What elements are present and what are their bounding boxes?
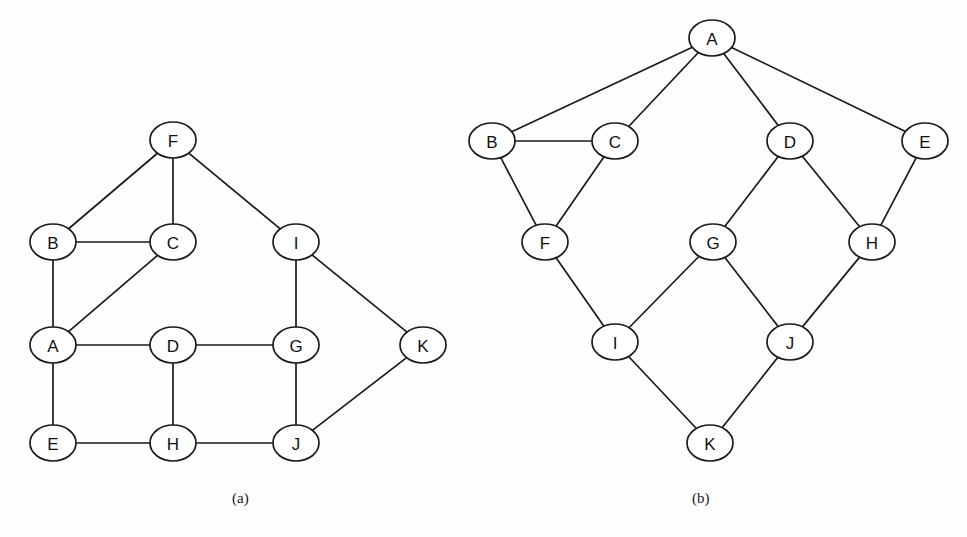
node-label-a-H: H	[167, 435, 179, 454]
graph-node-a-G[interactable]: G	[273, 327, 319, 363]
node-label-b-B: B	[486, 133, 497, 152]
graph-edge-a-F-I	[189, 153, 280, 229]
node-label-b-E: E	[919, 133, 930, 152]
graph-edge-b-E-H	[881, 158, 917, 226]
graph-edge-b-J-K	[722, 357, 778, 427]
graph-node-b-A[interactable]: A	[689, 20, 735, 56]
panel-caption-b: (b)	[692, 490, 710, 507]
graph-node-a-F[interactable]: F	[150, 122, 196, 158]
node-label-a-I: I	[294, 234, 299, 253]
figure-bottom-caption	[0, 528, 967, 537]
graph-edge-b-A-E	[732, 47, 906, 131]
graph-node-b-G[interactable]: G	[690, 224, 736, 260]
graph-node-a-A[interactable]: A	[30, 327, 76, 363]
graph-edge-a-C-A	[69, 255, 158, 331]
node-label-a-B: B	[47, 234, 58, 253]
graph-edge-b-A-B	[512, 47, 693, 132]
panel-caption-a: (a)	[232, 490, 249, 507]
node-label-b-D: D	[784, 133, 796, 152]
node-label-b-C: C	[609, 133, 621, 152]
graph-edge-b-D-G	[725, 156, 778, 226]
graph-node-a-I[interactable]: I	[273, 224, 319, 260]
graph-node-b-D[interactable]: D	[767, 123, 813, 159]
graph-node-a-K[interactable]: K	[400, 327, 446, 363]
node-label-a-C: C	[167, 234, 179, 253]
graph-node-b-E[interactable]: E	[902, 123, 948, 159]
graph-edge-b-I-K	[629, 357, 697, 429]
node-label-a-D: D	[167, 337, 179, 356]
graph-node-b-C[interactable]: C	[592, 123, 638, 159]
graph-node-a-C[interactable]: C	[150, 224, 196, 260]
node-label-b-G: G	[706, 234, 719, 253]
node-label-b-K: K	[704, 435, 716, 454]
graph-node-a-J[interactable]: J	[273, 425, 319, 461]
node-label-a-J: J	[292, 435, 301, 454]
graph-edge-b-C-F	[556, 157, 604, 226]
graph-edge-a-I-K	[312, 255, 407, 332]
node-label-b-I: I	[613, 334, 618, 353]
graph-edge-b-H-J	[802, 257, 859, 327]
graph-node-b-I[interactable]: I	[592, 324, 638, 360]
node-label-a-E: E	[47, 435, 58, 454]
graph-node-b-B[interactable]: B	[469, 123, 515, 159]
graph-edge-b-F-I	[556, 258, 604, 326]
node-label-a-A: A	[47, 337, 59, 356]
graph-edge-a-K-J	[312, 358, 406, 431]
node-label-b-F: F	[540, 234, 550, 253]
graph-node-a-H[interactable]: H	[150, 425, 196, 461]
node-label-b-H: H	[866, 234, 878, 253]
graph-edge-b-A-C	[629, 52, 699, 126]
graph-node-b-K[interactable]: K	[687, 425, 733, 461]
graph-edge-b-A-D	[724, 53, 779, 125]
graph-edge-a-F-B	[69, 153, 158, 229]
figure-root: FBCIADGKEHJABCDEFGHIJK (a) (b)	[0, 0, 967, 537]
graph-node-b-J[interactable]: J	[767, 324, 813, 360]
graph-node-b-F[interactable]: F	[522, 224, 568, 260]
node-label-b-J: J	[786, 334, 795, 353]
graph-edge-b-D-H	[802, 156, 859, 227]
graph-edge-b-B-F	[501, 158, 537, 226]
graph-node-b-H[interactable]: H	[849, 224, 895, 260]
graph-node-a-E[interactable]: E	[30, 425, 76, 461]
graph-edge-b-G-J	[725, 257, 778, 326]
graph-diagram-canvas: FBCIADGKEHJABCDEFGHIJK	[0, 0, 967, 537]
node-label-b-A: A	[706, 30, 718, 49]
node-label-a-F: F	[168, 132, 178, 151]
node-label-a-G: G	[289, 337, 302, 356]
node-label-a-K: K	[417, 337, 429, 356]
graph-edge-b-G-I	[629, 256, 699, 327]
graph-node-a-B[interactable]: B	[30, 224, 76, 260]
graph-node-a-D[interactable]: D	[150, 327, 196, 363]
